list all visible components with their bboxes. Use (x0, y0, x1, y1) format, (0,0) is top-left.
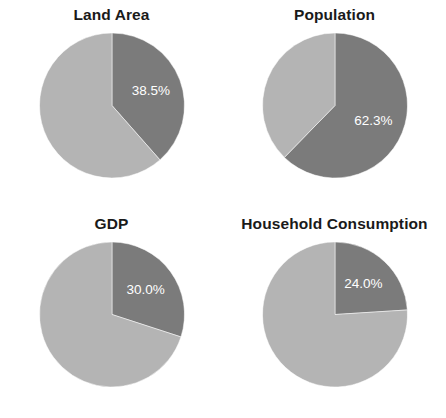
chart-title-land-area: Land Area (0, 6, 223, 24)
chart-panel-land-area: Land Area 38.5% (0, 0, 223, 209)
chart-title-population: Population (223, 6, 446, 24)
pie-svg-household-consumption (262, 242, 407, 387)
pie-svg-gdp (39, 242, 184, 387)
pie-population: 62.3% (262, 33, 407, 178)
chart-title-gdp: GDP (0, 215, 223, 233)
pie-gdp: 30.0% (39, 242, 184, 387)
chart-panel-population: Population 62.3% (223, 0, 446, 209)
pie-svg-land-area (39, 33, 184, 178)
chart-title-household-consumption: Household Consumption (223, 215, 446, 233)
chart-panel-household-consumption: Household Consumption 24.0% (223, 209, 446, 418)
pie-chart-grid: Land Area 38.5% Population 62.3% GDP 30.… (0, 0, 446, 418)
pie-household-consumption: 24.0% (262, 242, 407, 387)
pie-slice (335, 242, 407, 315)
pie-svg-population (262, 33, 407, 178)
chart-panel-gdp: GDP 30.0% (0, 209, 223, 418)
pie-land-area: 38.5% (39, 33, 184, 178)
